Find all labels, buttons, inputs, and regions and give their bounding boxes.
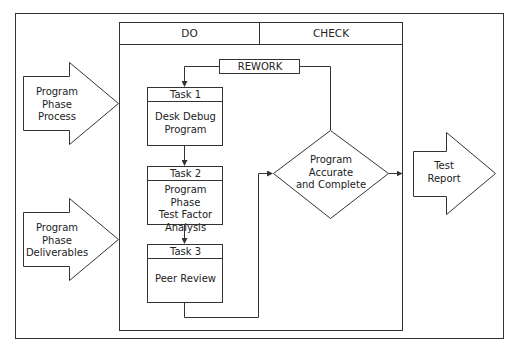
task3-description: Peer Review xyxy=(148,273,223,286)
column-header-check: CHECK xyxy=(260,23,402,44)
decision-to-rework-edge xyxy=(300,67,331,131)
decision-label: Program Accurate and Complete xyxy=(290,154,372,192)
task2-title: Task 2 xyxy=(148,167,223,180)
task2-description: Program Phase Test Factor Analysis xyxy=(148,184,223,234)
task3-title: Task 3 xyxy=(148,245,223,258)
rework-label: REWORK xyxy=(220,60,300,73)
input-label-process: Program Phase Process xyxy=(24,86,90,124)
task1-description: Desk Debug Program xyxy=(148,111,223,136)
column-header-do: DO xyxy=(120,23,259,44)
output-label-test-report: Test Report xyxy=(414,160,474,185)
rework-to-task1-edge xyxy=(185,67,220,87)
input-label-deliverables: Program Phase Deliverables xyxy=(24,222,90,260)
task1-title: Task 1 xyxy=(148,88,223,101)
